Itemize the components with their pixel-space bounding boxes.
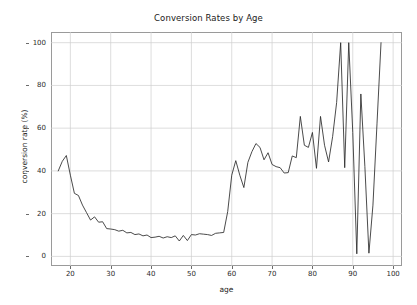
x-tick-mark — [151, 266, 152, 269]
chart-figure: Conversion Rates by Age conversion rate … — [0, 0, 417, 305]
x-tick-label: 30 — [106, 270, 115, 278]
y-tick-mark — [26, 256, 29, 257]
x-tick-mark — [353, 266, 354, 269]
x-tick-label: 50 — [187, 270, 196, 278]
x-tick-label: 70 — [268, 270, 277, 278]
y-tick-label: 40 — [37, 167, 46, 175]
series-line-conversion-rate — [51, 32, 402, 266]
x-tick-label: 60 — [227, 270, 236, 278]
x-tick-label: 20 — [66, 270, 75, 278]
y-tick-label: 80 — [37, 81, 46, 89]
x-axis-label: age — [51, 285, 402, 294]
y-tick-label: 0 — [42, 252, 46, 260]
x-tick-mark — [111, 266, 112, 269]
y-tick-mark — [26, 171, 29, 172]
y-tick-mark — [26, 128, 29, 129]
plot-area — [51, 32, 402, 266]
y-tick-mark — [26, 214, 29, 215]
x-tick-mark — [191, 266, 192, 269]
x-tick-mark — [232, 266, 233, 269]
x-tick-label: 80 — [308, 270, 317, 278]
x-tick-mark — [272, 266, 273, 269]
x-tick-mark — [70, 266, 71, 269]
x-tick-mark — [393, 266, 394, 269]
y-tick-mark — [26, 85, 29, 86]
chart-title: Conversion Rates by Age — [0, 13, 417, 23]
x-tick-mark — [312, 266, 313, 269]
y-tick-mark — [26, 43, 29, 44]
x-tick-label: 40 — [147, 270, 156, 278]
x-tick-label: 90 — [348, 270, 357, 278]
x-axis-tick-labels: 2030405060708090100 — [51, 270, 402, 282]
x-tick-label: 100 — [386, 270, 399, 278]
y-tick-label: 100 — [33, 39, 46, 47]
y-tick-label: 20 — [37, 210, 46, 218]
y-axis-tick-labels: 020406080100 — [22, 32, 46, 266]
y-tick-label: 60 — [37, 124, 46, 132]
